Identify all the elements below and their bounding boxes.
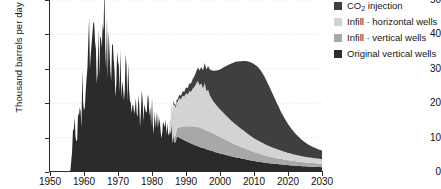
y-tick-mark <box>45 138 49 139</box>
legend-item-co2-injection[interactable]: CO2 injection <box>334 0 441 16</box>
y-tick-mark <box>45 0 49 1</box>
legend-item-infill-horizontal-wells[interactable]: Infill · horizontal wells <box>334 16 441 32</box>
y-tick-label: 30 <box>399 64 441 74</box>
legend-swatch-icon <box>334 34 342 42</box>
y-tick-label: 0 <box>399 167 441 177</box>
legend-item-original-vertical-wells[interactable]: Original vertical wells <box>334 48 441 64</box>
legend-label: Infill · vertical wells <box>347 32 426 44</box>
y-tick-label: 10 <box>399 133 441 143</box>
legend-swatch-icon <box>334 18 342 26</box>
x-tick-label: 2030 <box>302 176 342 187</box>
legend-label: Original vertical wells <box>347 48 436 60</box>
legend-label: CO2 injection <box>347 0 403 13</box>
chart-legend: CO2 injectionInfill · horizontal wellsIn… <box>334 0 441 64</box>
y-tick-mark <box>45 172 49 173</box>
y-axis-title: Thousand barrels per day <box>13 0 24 128</box>
y-tick-label: 20 <box>399 98 441 108</box>
y-tick-mark <box>45 103 49 104</box>
legend-swatch-icon <box>334 50 342 58</box>
legend-swatch-icon <box>334 2 342 10</box>
plot-area <box>50 0 322 172</box>
chart-figure: Thousand barrels per day 50403020100 195… <box>0 0 441 189</box>
y-tick-mark <box>45 69 49 70</box>
y-tick-mark <box>45 34 49 35</box>
stacked-area-plot <box>50 0 322 172</box>
legend-label: Infill · horizontal wells <box>347 16 437 28</box>
legend-item-infill-vertical-wells[interactable]: Infill · vertical wells <box>334 32 441 48</box>
